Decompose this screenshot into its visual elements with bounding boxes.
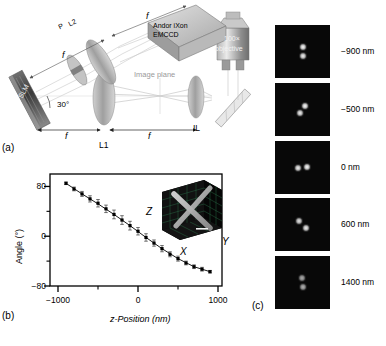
data-point <box>152 241 155 244</box>
psf-lobe <box>295 217 303 225</box>
data-point <box>136 230 139 233</box>
focal-length-label-1: f <box>62 51 65 61</box>
x-axis-title: z-Position (nm) <box>110 314 171 324</box>
lens-l1-label: L1 <box>99 141 108 150</box>
data-point <box>72 187 75 190</box>
x-axis-tick-label: −1000 <box>34 295 82 305</box>
data-point <box>176 257 179 260</box>
psf-frame-label: −900 nm <box>341 46 374 56</box>
optical-diagram-svg <box>0 0 252 162</box>
data-point <box>120 218 123 221</box>
panel-b-letter: (b) <box>2 310 14 321</box>
inset-axis-x-label: X <box>180 246 187 257</box>
psf-lobe <box>298 274 306 282</box>
data-point <box>80 192 83 195</box>
panel-a-optical-setup: SLM Andor iXon EMCCD 100× objective Imag… <box>0 0 252 162</box>
psf-lobe <box>299 283 307 291</box>
inset-axis-z-label: Z <box>146 206 152 217</box>
data-point <box>184 261 187 264</box>
y-axis-tick-label: 80 <box>20 181 46 191</box>
image-plane-label: Image plane <box>134 71 175 79</box>
psf-frame-label: 1400 nm <box>341 277 374 287</box>
3d-reconstruction-inset <box>158 178 226 244</box>
panel-b-calibration-chart: Z X Y z-Position (nm) Angle (°) (b) 800−… <box>0 162 252 346</box>
psf-lobe <box>299 43 307 51</box>
panel-a-letter: (a) <box>2 142 14 153</box>
panel-c-letter: (c) <box>252 300 264 311</box>
data-point <box>96 202 99 205</box>
imaging-lens-label: IL <box>193 124 200 133</box>
data-point <box>128 224 131 227</box>
psf-lobe <box>294 164 302 172</box>
psf-lobe <box>303 163 311 171</box>
psf-frame <box>275 256 330 309</box>
inset-axis-y-label: Y <box>222 236 229 247</box>
focal-length-label-2: f <box>146 12 149 22</box>
focal-length-label-4: f <box>148 132 151 142</box>
data-point <box>200 268 203 271</box>
data-point <box>160 247 163 250</box>
psf-frame <box>275 198 330 251</box>
psf-lobe <box>302 224 310 232</box>
y-axis-tick-label: 0 <box>20 231 46 241</box>
data-point <box>104 207 107 210</box>
psf-frame-label: 600 nm <box>341 219 369 229</box>
psf-frame-label: −500 nm <box>341 104 374 114</box>
x-axis-tick-label: 1000 <box>194 295 242 305</box>
data-point <box>88 197 91 200</box>
data-point <box>144 236 147 239</box>
panel-c-psf-images: (c) −900 nm−500 nm0 nm600 nm1400 nm <box>255 0 386 346</box>
psf-frame <box>275 141 330 194</box>
data-point <box>64 182 67 185</box>
objective-label-line2: objective <box>215 45 243 53</box>
x-axis-title-text: z-Position (nm) <box>110 314 171 324</box>
data-point <box>192 265 195 268</box>
x-axis-tick-label: 0 <box>114 295 162 305</box>
figure-root: SLM Andor iXon EMCCD 100× objective Imag… <box>0 0 386 346</box>
psf-lobe <box>296 109 304 117</box>
data-point <box>208 270 211 273</box>
angle-30-label: 30° <box>57 101 69 110</box>
data-point <box>112 213 115 216</box>
psf-frame <box>275 25 330 78</box>
y-axis-tick-label: −80 <box>20 281 46 291</box>
focal-length-label-3: f <box>65 132 68 142</box>
camera-label-line1: Andor iXon <box>153 22 188 30</box>
camera-label-line2: EMCCD <box>153 31 179 39</box>
objective-label-line1: 100× <box>224 35 240 43</box>
psf-frame-label: 0 nm <box>341 162 360 172</box>
psf-frame <box>275 83 330 136</box>
psf-lobe <box>299 52 307 60</box>
data-point <box>168 253 171 256</box>
psf-lobe <box>301 102 309 110</box>
